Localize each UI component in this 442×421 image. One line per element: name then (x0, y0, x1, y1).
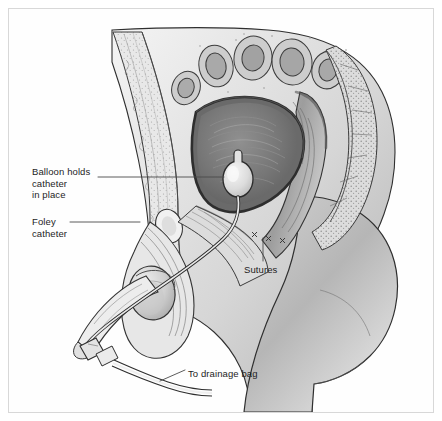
label-sutures: Sutures (244, 264, 277, 276)
label-to-drainage-bag: To drainage bag (188, 368, 258, 380)
label-foley-catheter: Foley catheter (32, 216, 67, 239)
label-balloon-holds-catheter: Balloon holds catheter in place (32, 166, 90, 201)
anatomical-illustration (0, 0, 442, 421)
illustration-figure: Balloon holds catheter in place Foley ca… (0, 0, 442, 421)
leader-drainage (160, 370, 185, 381)
